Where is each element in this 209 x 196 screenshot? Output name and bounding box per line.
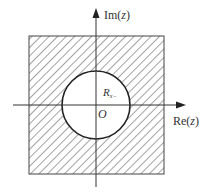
imaginary-axis-label: Im(z) [104,8,130,22]
origin-label: O [98,107,107,121]
real-axis-label: Re(z) [173,114,199,128]
z-plane-diagram: Im(z) Re(z) O Rx− [0,0,209,196]
real-axis-arrow-icon [176,102,186,109]
imaginary-axis-arrow-icon [93,8,100,18]
